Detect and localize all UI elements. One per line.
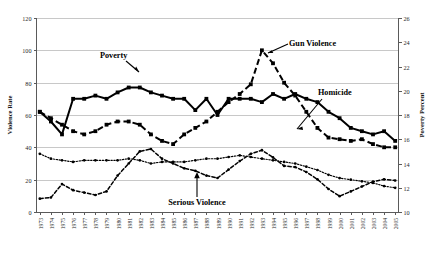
data-point [61,159,64,162]
data-point [138,159,141,162]
data-point [183,161,186,164]
data-point [182,97,186,101]
annotation-gun-violence-label: Gun Violence [289,39,336,48]
data-point [271,92,275,96]
data-point [172,162,175,165]
x-tick-label: 1990 [227,218,233,229]
data-point [205,174,208,177]
data-point [282,97,286,101]
data-point [327,173,330,176]
x-tick-label: 1992 [249,218,255,229]
data-point [260,48,264,52]
left-tick-label: 120 [22,15,31,22]
data-point [171,97,175,101]
data-point [272,159,275,162]
data-point [194,159,197,162]
data-point [382,129,386,133]
x-tick-label: 1998 [315,218,321,229]
data-point [349,190,352,193]
data-point [160,94,164,98]
data-point [260,100,264,104]
data-point [283,161,286,164]
left-tick-label: 100 [22,47,31,54]
data-point [238,154,241,157]
data-point [371,142,375,146]
x-tick-label: 1988 [204,218,210,229]
annotation-homicide-label: Homicide [318,88,352,97]
data-point [294,166,297,169]
data-point [261,157,264,160]
data-point [393,139,397,143]
data-point [216,157,219,160]
data-point [272,156,275,159]
data-point [105,190,108,193]
x-tick-label: 2005 [393,218,399,229]
data-point [49,120,53,124]
data-point [316,178,319,181]
x-tick-label: 1974 [49,218,55,229]
x-tick-label: 1982 [138,218,144,229]
data-point [360,129,364,133]
data-point [105,97,109,101]
data-point [161,161,164,164]
data-point [372,180,375,183]
data-point [205,97,209,101]
data-point [94,129,98,133]
data-point [293,92,297,96]
x-tick-label: 1977 [82,218,88,229]
data-point [83,191,86,194]
data-point [149,91,153,95]
data-point [361,185,364,188]
x-tick-label: 2002 [360,218,366,229]
data-point [238,160,241,163]
x-tick-label: 1996 [293,218,299,229]
data-point [105,159,108,162]
data-point [216,113,220,117]
data-point [38,110,42,114]
data-point [361,180,364,183]
x-tick-label: 1981 [127,218,133,229]
data-point [82,97,86,101]
data-point [227,156,230,159]
data-point [82,133,86,137]
data-point [304,110,308,114]
data-point [160,139,164,143]
data-point [360,137,364,141]
data-point [261,149,264,152]
data-point [50,196,53,199]
right-tick-label: 26 [404,15,410,22]
data-point [116,91,120,95]
data-point [383,178,386,181]
x-tick-label: 1984 [160,218,166,229]
data-point [138,86,142,90]
left-tick-label: 40 [25,144,31,151]
data-point [116,120,120,124]
data-point [205,157,208,160]
x-tick-label: 1983 [149,218,155,229]
x-tick-label: 1987 [193,218,199,229]
data-point [305,171,308,174]
data-point [327,188,330,191]
left-axis-title: Violence Rate [6,96,13,135]
x-tick-label: 1995 [282,218,288,229]
right-axis-title: Poverty Percent [418,92,425,138]
data-point [349,126,353,130]
data-point [371,133,375,137]
left-tick-label: 20 [25,177,31,184]
data-point [149,133,153,137]
left-tick-label: 0 [28,209,31,216]
x-tick-label: 1993 [260,218,266,229]
data-point [193,126,197,130]
data-point [60,123,64,127]
x-tick-label: 2004 [382,218,388,229]
left-tick-label: 60 [25,112,31,119]
data-point [304,97,308,101]
data-point [283,165,286,168]
data-point [316,126,320,130]
data-point [227,168,230,171]
data-point [183,167,186,170]
data-point [50,157,53,160]
x-tick-label: 2000 [338,218,344,229]
data-point [194,169,197,172]
x-tick-label: 1985 [171,218,177,229]
